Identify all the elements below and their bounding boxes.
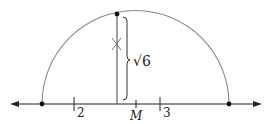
left-arrow-icon	[10, 101, 19, 107]
right-arrow-icon	[253, 101, 262, 107]
midpoint-label: M	[130, 110, 142, 122]
length-brace	[123, 17, 130, 100]
left-endpoint	[40, 102, 45, 107]
tick-label-2: 2	[77, 107, 85, 119]
tick-label-3: 3	[163, 107, 171, 119]
length-label: √6	[133, 54, 151, 68]
right-endpoint	[227, 102, 232, 107]
top-point	[115, 12, 120, 17]
construction-diagram: 2 M 3 √6	[0, 0, 270, 124]
